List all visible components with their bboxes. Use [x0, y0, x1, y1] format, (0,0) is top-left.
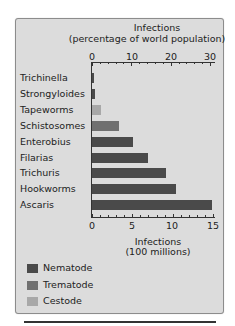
tick-mark [92, 62, 93, 66]
bottom-axis-subtitle: (100 millions) [108, 246, 208, 257]
bottom-tick-15: 15 [207, 220, 219, 231]
tick-mark [197, 215, 198, 217]
legend-label-cestode: Cestode [43, 296, 82, 306]
bottom-tick-5: 5 [129, 220, 135, 231]
tick-mark [189, 215, 190, 217]
tick-mark [148, 215, 149, 217]
tick-mark [157, 215, 158, 217]
tick-mark [131, 62, 132, 66]
category-label: Trichuris [20, 168, 60, 178]
bar-filarias [92, 153, 148, 163]
tick-mark [108, 62, 109, 64]
bar-tapeworms [92, 105, 101, 115]
tick-mark [179, 62, 180, 64]
legend-label-nematode: Nematode [43, 263, 92, 273]
tick-mark [147, 62, 148, 64]
tick-mark [139, 62, 140, 64]
bar-ascaris [92, 200, 212, 210]
category-label: Schistosomes [20, 121, 85, 131]
legend-swatch-cestode [27, 297, 38, 306]
tick-mark [205, 215, 206, 217]
tick-mark [213, 214, 214, 218]
tick-mark [186, 62, 187, 64]
tick-mark [124, 215, 125, 217]
legend-swatch-nematode [27, 264, 38, 273]
tick-mark [202, 62, 203, 64]
tick-mark [155, 62, 156, 64]
category-label: Tapeworms [20, 105, 73, 115]
bottom-tick-0: 0 [89, 220, 95, 231]
divider-rule [24, 321, 216, 323]
bottom-tick-10: 10 [166, 220, 178, 231]
tick-mark [173, 214, 174, 218]
top-axis-subtitle: (percentage of world population) [62, 33, 232, 44]
bar-trichuris [92, 168, 166, 178]
top-tick-20: 20 [165, 51, 177, 62]
tick-mark [165, 215, 166, 217]
tick-mark [132, 214, 133, 218]
tick-mark [116, 215, 117, 217]
legend-swatch-trematode [27, 281, 38, 290]
category-label: Strongyloides [20, 89, 85, 99]
tick-mark [108, 215, 109, 217]
tick-mark [163, 62, 164, 64]
bar-trichinella [92, 73, 94, 83]
category-label: Trichinella [20, 73, 68, 83]
top-axis-title: Infections [92, 22, 222, 33]
tick-mark [123, 62, 124, 64]
category-label: Enterobius [20, 137, 71, 147]
category-label: Hookworms [20, 184, 76, 194]
tick-mark [100, 62, 101, 64]
tick-mark [116, 62, 117, 64]
tick-mark [210, 62, 211, 66]
bottom-axis-line [91, 217, 215, 218]
tick-mark [181, 215, 182, 217]
tick-mark [92, 214, 93, 218]
bar-hookworms [92, 184, 176, 194]
tick-mark [140, 215, 141, 217]
bar-strongyloides [92, 89, 95, 99]
bar-enterobius [92, 137, 133, 147]
top-axis-line [91, 62, 215, 63]
top-tick-0: 0 [89, 51, 95, 62]
top-tick-30: 30 [204, 51, 216, 62]
category-label: Filarias [20, 153, 53, 163]
legend-label-trematode: Trematode [43, 280, 93, 290]
tick-mark [194, 62, 195, 64]
category-label: Ascaris [20, 200, 54, 210]
bar-schistosomes [92, 121, 119, 131]
top-tick-10: 10 [126, 51, 138, 62]
tick-mark [171, 62, 172, 66]
tick-mark [100, 215, 101, 217]
